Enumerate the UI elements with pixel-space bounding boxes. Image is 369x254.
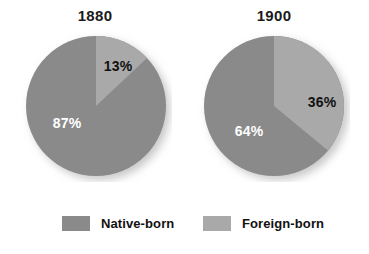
legend-label-foreign-born: Foreign-born [242, 216, 324, 231]
pie-1900-foreign-value-label: 36% [308, 94, 337, 110]
legend-label-native-born: Native-born [101, 216, 174, 231]
pie-1880-native-value-label: 87% [53, 115, 82, 131]
pie-1880-svg [20, 30, 172, 182]
legend-item-native-born: Native-born [62, 213, 174, 233]
chart-legend: Native-born Foreign-born [0, 210, 369, 240]
pie-chart-1880 [20, 30, 172, 182]
chart-title-1880: 1880 [78, 7, 113, 24]
pie-1880-foreign-value-label: 13% [104, 58, 133, 74]
legend-swatch-native-born [62, 216, 90, 231]
legend-swatch-foreign-born [203, 216, 231, 231]
pie-1900-native-value-label: 64% [235, 123, 264, 139]
pie-chart-figure: 1880 1900 [0, 0, 369, 254]
legend-item-foreign-born: Foreign-born [203, 213, 324, 233]
chart-title-1900: 1900 [257, 7, 292, 24]
